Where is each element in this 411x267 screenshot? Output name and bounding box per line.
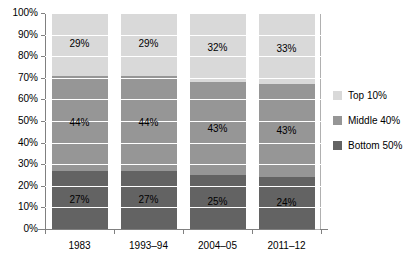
y-tick-mark [41, 35, 45, 36]
bar-value-label: 44% [121, 118, 177, 128]
y-tick-label: 30% [0, 159, 38, 169]
y-tick-label: 80% [0, 51, 38, 61]
right-tick-mark [315, 186, 320, 187]
y-tick-label: 0% [0, 224, 38, 234]
x-axis-label: 2004–05 [183, 240, 252, 251]
bar-2004–05: 25%43%32% [190, 13, 246, 229]
y-tick-label: 100% [0, 8, 38, 18]
x-axis-label: 2011–12 [252, 240, 321, 251]
stacked-bar-chart: 0%10%20%30%40%50%60%70%80%90%100% 27%44%… [0, 0, 411, 267]
right-tick-mark [315, 207, 320, 208]
legend-swatch-icon [333, 116, 342, 125]
legend-swatch-icon [333, 91, 342, 100]
y-tick-label: 50% [0, 116, 38, 126]
bar-1993–94: 27%44%29% [121, 13, 177, 229]
right-tick-mark [315, 121, 320, 122]
bar-value-label: 43% [190, 124, 246, 134]
bar-1983: 27%44%29% [52, 13, 108, 229]
bar-2011–12: 24%43%33% [259, 13, 315, 229]
bar-value-label: 25% [190, 197, 246, 207]
y-tick-label: 90% [0, 30, 38, 40]
y-tick-mark [41, 78, 45, 79]
bar-value-label: 33% [259, 44, 315, 54]
y-tick-label: 40% [0, 138, 38, 148]
x-axis-label: 1993–94 [114, 240, 183, 251]
x-axis-label: 1983 [45, 240, 114, 251]
plot-area: 27%44%29%27%44%29%25%43%32%24%43%33% [45, 13, 321, 229]
bar-value-label: 24% [259, 198, 315, 208]
legend-label: Middle 40% [348, 115, 400, 126]
y-tick-label: 70% [0, 73, 38, 83]
y-tick-mark [41, 207, 45, 208]
y-axis: 0%10%20%30%40%50%60%70%80%90%100% [0, 0, 38, 267]
right-tick-mark [315, 13, 320, 14]
x-tick-mark [45, 229, 46, 234]
y-tick-label: 10% [0, 202, 38, 212]
y-tick-mark [41, 56, 45, 57]
right-tick-mark [315, 35, 320, 36]
y-tick-mark [41, 121, 45, 122]
x-tick-mark [183, 229, 184, 234]
y-tick-mark [41, 99, 45, 100]
bar-value-label: 29% [121, 39, 177, 49]
right-tick-mark [315, 143, 320, 144]
y-tick-mark [41, 13, 45, 14]
y-tick-mark [41, 143, 45, 144]
right-tick-mark [315, 99, 320, 100]
legend-label: Bottom 50% [348, 140, 402, 151]
x-tick-mark [114, 229, 115, 234]
y-tick-label: 60% [0, 94, 38, 104]
right-tick-mark [315, 56, 320, 57]
right-tick-mark [315, 164, 320, 165]
legend-swatch-icon [333, 141, 342, 150]
legend-label: Top 10% [348, 90, 387, 101]
x-tick-mark [321, 229, 322, 234]
y-tick-mark [41, 164, 45, 165]
bar-value-label: 43% [259, 126, 315, 136]
right-tick-mark [315, 229, 320, 230]
y-tick-label: 20% [0, 181, 38, 191]
bar-value-label: 29% [52, 39, 108, 49]
bar-value-label: 32% [190, 43, 246, 53]
bar-value-label: 27% [52, 195, 108, 205]
y-tick-mark [41, 186, 45, 187]
bar-value-label: 27% [121, 195, 177, 205]
x-tick-mark [252, 229, 253, 234]
right-tick-mark [315, 78, 320, 79]
bar-value-label: 44% [52, 118, 108, 128]
